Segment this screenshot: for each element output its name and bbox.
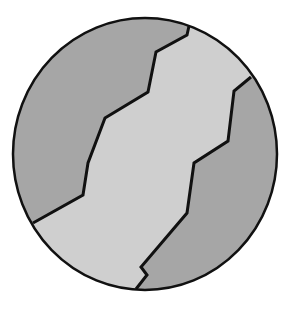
cross-section-diagram: [0, 0, 290, 314]
diagram-canvas: [0, 0, 290, 314]
